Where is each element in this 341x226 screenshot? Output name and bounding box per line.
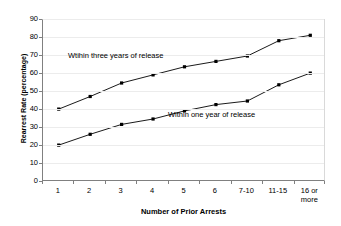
x-tick-label: 1 — [56, 186, 60, 195]
data-point-marker — [277, 83, 280, 86]
data-point-marker — [120, 123, 123, 126]
y-tick-label: 0 — [20, 177, 38, 185]
gridline — [43, 19, 324, 20]
gridline — [43, 163, 324, 164]
gridline — [43, 91, 324, 92]
x-tick-mark — [73, 181, 74, 184]
x-tick-mark — [168, 181, 169, 184]
data-point-marker — [214, 60, 217, 63]
x-tick-label: 6 — [213, 186, 217, 195]
y-tick-mark — [39, 163, 42, 164]
x-tick-mark — [136, 181, 137, 184]
y-tick-label: 60 — [20, 69, 38, 77]
y-tick-mark — [39, 91, 42, 92]
gridline — [43, 37, 324, 38]
data-point-marker — [89, 133, 92, 136]
series-lines-svg — [43, 20, 326, 182]
y-tick-label: 40 — [20, 105, 38, 113]
series-annotation-three-year: Wtihin three years of release — [68, 51, 163, 60]
data-point-marker — [183, 65, 186, 68]
x-tick-label: 16 or more — [301, 186, 318, 204]
x-tick-mark — [262, 181, 263, 184]
y-tick-label: 90 — [20, 15, 38, 23]
gridline — [43, 145, 324, 146]
gridline — [43, 73, 324, 74]
y-tick-mark — [39, 37, 42, 38]
y-tick-mark — [39, 127, 42, 128]
x-tick-label: 11-15 — [269, 186, 288, 195]
x-tick-label: 7-10 — [239, 186, 254, 195]
data-point-marker — [277, 39, 280, 42]
series-annotation-one-year: Within one year of release — [168, 110, 255, 119]
y-tick-mark — [39, 73, 42, 74]
x-tick-mark — [199, 181, 200, 184]
x-tick-mark — [42, 181, 43, 184]
data-point-marker — [246, 99, 249, 102]
rearrest-rate-line-chart: Rearrest Rate (percentage) 9080706050403… — [0, 0, 341, 226]
y-tick-mark — [39, 19, 42, 20]
y-tick-label: 20 — [20, 141, 38, 149]
data-point-marker — [89, 95, 92, 98]
x-tick-mark — [294, 181, 295, 184]
y-tick-mark — [39, 145, 42, 146]
plot-area — [42, 19, 325, 181]
y-tick-mark — [39, 109, 42, 110]
gridline — [43, 127, 324, 128]
x-axis-title: Number of Prior Arrests — [42, 207, 325, 216]
data-point-marker — [120, 81, 123, 84]
y-tick-label: 30 — [20, 123, 38, 131]
x-tick-label: 5 — [181, 186, 185, 195]
x-tick-label: 2 — [87, 186, 91, 195]
y-tick-label: 50 — [20, 87, 38, 95]
x-tick-mark — [231, 181, 232, 184]
x-tick-label: 3 — [119, 186, 123, 195]
x-tick-label: 4 — [150, 186, 154, 195]
x-tick-mark — [324, 181, 325, 184]
data-point-marker — [151, 117, 154, 120]
data-point-marker — [214, 103, 217, 106]
y-tick-mark — [39, 55, 42, 56]
x-tick-mark — [105, 181, 106, 184]
y-axis-tick-labels: 9080706050403020100 — [20, 19, 38, 181]
y-tick-label: 70 — [20, 51, 38, 59]
y-tick-label: 80 — [20, 33, 38, 41]
y-tick-label: 10 — [20, 159, 38, 167]
